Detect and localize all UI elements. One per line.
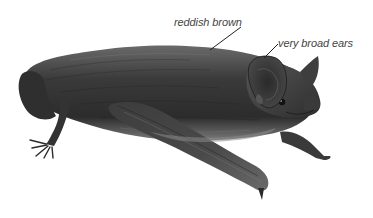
bat-fore-foot <box>280 132 331 160</box>
annotation-very-broad-ears: very broad ears <box>278 37 353 49</box>
leader-line-fur <box>210 27 241 50</box>
annotation-reddish-brown: reddish brown <box>174 16 242 28</box>
figure: reddish brown very broad ears <box>0 0 373 218</box>
bat-illustration <box>0 0 373 218</box>
leader-line-ears <box>264 44 278 58</box>
